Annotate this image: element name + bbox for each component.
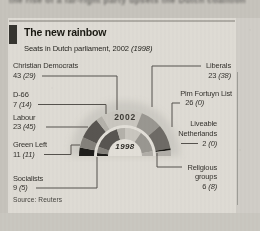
party-label-liveable-netherlands-line1: Liveable: [190, 119, 217, 128]
party-label-green-left: Green Left: [13, 140, 47, 149]
ring-label-2002: 2002: [110, 112, 140, 122]
party-label-religious-groups-line2: groups: [195, 172, 217, 181]
leader-line-socialists: [36, 157, 97, 188]
ring-label-1998: 1998: [109, 142, 141, 151]
party-label-christian-democrats: Christian Democrats: [13, 61, 78, 70]
seats-value-christian-democrats: 43 (29): [13, 71, 36, 80]
source-note: Source: Reuters: [13, 196, 62, 203]
seats-value-liveable-netherlands: 2 (0): [202, 139, 217, 148]
party-label-labour: Labour: [13, 113, 35, 122]
leader-line-pim-fortuyn-list: [172, 103, 180, 127]
seats-value-labour: 23 (45): [13, 122, 36, 131]
seats-value-liberals: 23 (38): [208, 71, 231, 80]
seats-value-green-left: 11 (11): [13, 150, 35, 159]
scanned-chart-page: the rise of a far-right party upsets the…: [0, 0, 260, 231]
party-label-d66: D-66: [13, 90, 29, 99]
party-label-socialists: Socialists: [13, 174, 43, 183]
seats-value-pim-fortuyn-list: 26 (0): [185, 98, 204, 107]
party-label-liveable-netherlands-line2: Netherlands: [178, 129, 217, 138]
seats-value-religious-groups: 6 (8): [202, 182, 217, 191]
party-label-pim-fortuyn-list: Pim Fortuyn List: [180, 89, 232, 98]
seats-value-socialists: 9 (5): [13, 183, 28, 192]
seats-value-d66: 7 (14): [13, 100, 32, 109]
party-label-religious-groups-line1: Religious: [188, 163, 218, 172]
party-label-liberals: Liberals: [206, 61, 231, 70]
